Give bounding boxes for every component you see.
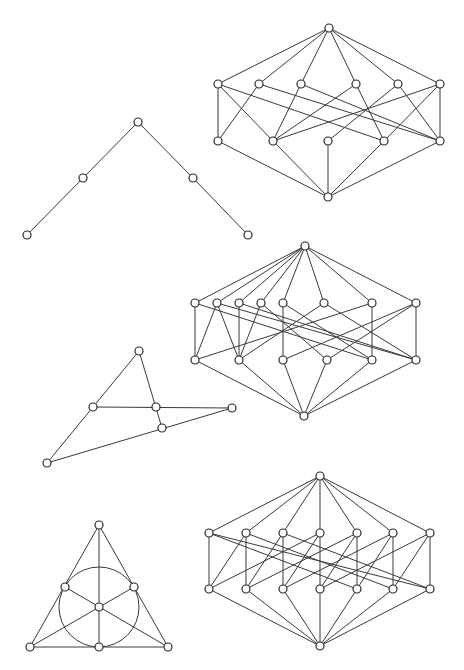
node-l4 [316,585,324,593]
lattice-1 [214,24,444,201]
edge-p2-l1 [209,533,246,589]
edge-left-mid-bottom-right [65,587,168,647]
diagram-canvas [0,0,464,670]
node-z [316,642,324,650]
edge-b6-z [304,360,416,416]
edge-t-p6 [320,476,393,533]
node-a6 [436,80,444,88]
node-a5 [279,299,287,307]
node-z [300,412,308,420]
node-right-mid [130,583,138,591]
node-p1 [205,529,213,537]
node-a2 [255,80,263,88]
edge-t-a4 [329,28,356,84]
edge-a5-b3 [328,84,398,141]
node-b5 [368,356,376,364]
node-p2 [242,529,250,537]
edge-t-p7 [320,476,430,533]
edge-a6-b2 [239,303,324,360]
edge-a1-b4 [218,84,384,141]
node-center [95,603,103,611]
edge-l7-z [320,589,430,646]
node-b3 [279,356,287,364]
edge-b5-z [328,141,440,197]
node-p5 [353,529,361,537]
edge-b1-z [218,141,328,197]
lattice-2 [191,242,420,420]
edge-t-p2 [246,476,320,533]
node-a1 [191,299,199,307]
node-p [134,118,142,126]
node-r1 [23,231,31,239]
edge-l1-z [209,589,320,646]
node-l5 [353,585,361,593]
edge-l2-z [246,589,320,646]
edge-b5-z [304,360,372,416]
node-a8 [412,299,420,307]
node-b1 [214,137,222,145]
edge-a2-b1 [195,303,217,360]
edge-t-a5 [329,28,398,84]
edge-p4-l1 [209,533,320,589]
node-b2 [269,137,277,145]
point-line-configuration [43,347,236,467]
edge-p7-l4 [320,533,430,589]
node-l6 [389,585,397,593]
edge-t-p1 [209,476,320,533]
edge-p-q2 [138,122,193,178]
edge-t-a2 [259,28,329,84]
edge-l6-z [320,589,393,646]
node-t [316,472,324,480]
edge-b4-z [304,360,327,416]
node-a4 [352,80,360,88]
node-B [89,403,97,411]
edge-A-E [139,351,162,428]
edge-q1-r1 [27,178,83,235]
node-a7 [368,299,376,307]
node-l1 [205,585,213,593]
node-b3 [324,137,332,145]
edge-a2-b1 [218,84,259,141]
node-p7 [426,529,434,537]
fano-lattice [205,472,434,650]
node-bottom-left [26,643,34,651]
node-A [135,347,143,355]
node-E [158,424,166,432]
node-bottom-right [164,643,172,651]
node-t [301,242,309,250]
edge-t-a1 [195,246,305,303]
node-a6 [320,299,328,307]
edge-a6-b2 [273,84,440,141]
node-D [228,404,236,412]
edge-t-p3 [283,476,320,533]
edge-b2-z [273,141,328,197]
node-a5 [394,80,402,88]
edge-t-a5 [283,246,305,303]
node-b4 [380,137,388,145]
node-b5 [436,137,444,145]
fano-plane [26,521,172,651]
node-bottom-mid [95,643,103,651]
node-p4 [316,529,324,537]
edge-a1-b2 [218,84,273,141]
node-a2 [213,299,221,307]
node-a1 [214,80,222,88]
edge-right-mid-bottom-left [30,587,134,647]
edge-a5-b5 [283,303,372,360]
node-b4 [323,356,331,364]
node-p6 [389,529,397,537]
edge-a8-b3 [283,303,416,360]
node-q2 [189,174,197,182]
node-left-mid [61,583,69,591]
edge-l3-z [283,589,320,646]
node-q1 [79,174,87,182]
node-l3 [279,585,287,593]
node-l7 [426,585,434,593]
node-a3 [297,80,305,88]
edge-p-q1 [83,122,138,178]
node-b6 [412,356,420,364]
edge-t-a1 [218,28,329,84]
edge-t-a4 [261,246,305,303]
edge-a4-b2 [239,303,261,360]
node-z [324,193,332,201]
